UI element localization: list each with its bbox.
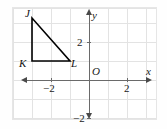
vertex-label-j: J bbox=[25, 8, 30, 19]
figure-frame: J K L y x O −2 2 2 −2 bbox=[12, 7, 157, 120]
x-tick-label-neg2: −2 bbox=[43, 83, 55, 94]
x-axis-label: x bbox=[146, 66, 151, 77]
triangle-jkl bbox=[13, 8, 158, 121]
origin-label: O bbox=[92, 66, 100, 77]
y-tick-label-2: 2 bbox=[77, 37, 83, 48]
y-axis-label: y bbox=[92, 10, 97, 21]
y-tick-label-neg2: −2 bbox=[73, 113, 85, 124]
vertex-label-l: L bbox=[71, 58, 77, 69]
triangle-outline bbox=[32, 18, 70, 61]
coordinate-plane-figure: J K L y x O −2 2 2 −2 bbox=[0, 0, 167, 129]
vertex-label-k: K bbox=[19, 58, 26, 69]
x-tick-label-2: 2 bbox=[124, 83, 130, 94]
